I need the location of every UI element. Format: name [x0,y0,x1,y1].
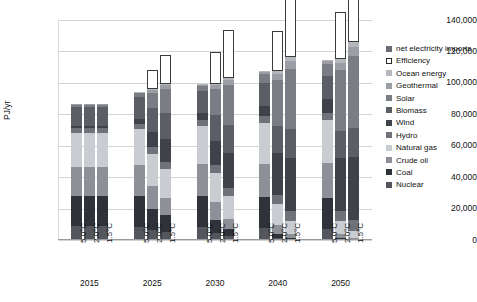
bar-segment-hydro [84,128,95,133]
legend-swatch-icon [386,145,392,151]
bar-segment-geothermal [223,80,234,85]
bar-segment-coal [84,196,95,226]
figure: PJ/yr 140,000120,000100,00080,00060,0004… [0,0,477,302]
x-axis-scenario-label: 1.5°C [357,223,365,243]
gridline [58,20,372,21]
legend-label: Nuclear [396,180,424,189]
bar-segment-hydro [197,120,208,126]
bar-segment-hydro [272,195,283,204]
legend-label: Coal [396,168,412,177]
bar-segment-geothermal [285,61,296,69]
bar-segment-wind [160,139,171,162]
x-axis-scenario-label: 5.0°C [80,223,88,243]
legend-swatch-icon [386,83,392,89]
legend-swatch-icon [386,70,392,76]
bar-segment-natural-gas [97,133,108,167]
legend-item[interactable]: Solar [386,94,476,103]
bar-segment-natural-gas [84,133,95,167]
bar-segment-crude-oil [84,167,95,196]
bar-segment-efficiency [210,52,221,84]
plot-area [58,20,372,240]
bar-segment-coal [97,196,108,226]
bar-segment-crude-oil [322,163,333,198]
bar-segment-hydro [210,165,221,173]
bar-segment-solar [97,105,108,106]
legend-swatch-icon [386,182,392,188]
bar-segment-crude-oil [147,186,158,209]
bar-segment-geothermal [197,84,208,86]
x-axis-scenario-label: 5.0°C [331,223,339,243]
bar-segment-wind [348,157,359,221]
legend-item[interactable]: Hydro [386,131,476,140]
bar-segment-geothermal [335,63,346,71]
legend-item[interactable]: Efficiency [386,56,476,65]
bar-segment-geothermal [160,85,171,89]
bar-segment-solar [259,74,270,83]
bar-segment-wind [322,99,333,112]
bar-segment-crude-oil [71,167,82,196]
bar-segment-geothermal [272,74,283,80]
legend-swatch-icon [386,169,392,175]
x-axis-year-label: 2030 [180,279,250,288]
bar-segment-biomass [210,115,221,141]
legend-item[interactable]: Ocean energy [386,69,476,78]
bar-segment-wind [272,153,283,195]
x-axis-scenario-label: 5.0°C [206,223,214,243]
bar-segment-solar [272,80,283,126]
legend-item[interactable]: Geothermal [386,81,476,90]
y-axis-tick-label: 20,000 [425,204,477,213]
x-axis-year-label: 2040 [243,279,313,288]
x-axis-scenario-label: 5.0°C [143,223,151,243]
bar-segment-wind [97,126,108,128]
x-axis-year-label: 2050 [306,279,376,288]
bar-segment-solar [322,64,333,76]
bar-segment-biomass [272,126,283,154]
bar-segment-efficiency [335,12,346,58]
bar-segment-natural-gas [147,154,158,186]
bar-segment-ocean-energy [147,89,158,90]
bar-segment-wind [147,132,158,147]
legend-item[interactable]: Wind [386,118,476,127]
legend-item[interactable]: Coal [386,168,476,177]
legend-swatch-icon [386,157,392,163]
bar-segment-geothermal [322,61,333,64]
bar-segment-ocean-energy [335,59,346,63]
x-axis-scenario-label: 2.0°C [156,223,164,243]
bar-segment-wind [223,153,234,188]
legend-label: Geothermal [396,81,438,90]
bar-segment-wind [210,141,221,165]
bar-segment-biomass [84,107,95,127]
y-axis-tick-label: 140,000 [425,16,477,25]
legend-item[interactable]: Nuclear [386,180,476,189]
legend-item[interactable]: Natural gas [386,143,476,152]
bar-segment-solar [84,105,95,106]
bar-segment-hydro [147,147,158,154]
bar-segment-ocean-energy [285,57,296,61]
y-axis-tick-label: 0 [425,236,477,245]
legend-item[interactable]: Crude oil [386,156,476,165]
bar-segment-geothermal [97,104,108,105]
bar-segment-wind [197,113,208,120]
bar-segment-efficiency [160,55,171,84]
bar-segment-natural-gas [259,123,270,164]
bar-segment-biomass [160,113,171,139]
bar-segment-solar [197,86,208,92]
x-axis-scenario-label: 2.0°C [281,223,289,243]
bar-segment-hydro [335,211,346,221]
bar-segment-solar [285,69,296,130]
y-axis-title: PJ/yr [2,101,12,120]
bar-segment-solar [335,70,346,131]
legend-item[interactable]: Biomass [386,106,476,115]
legend-item[interactable]: net electricity imports [386,44,476,53]
bar-segment-biomass [285,129,296,158]
bar-segment-wind [335,158,346,211]
bar-segment-solar [223,85,234,125]
bar-segment-wind [84,126,95,128]
bar-segment-hydro [322,113,333,120]
bar-segment-hydro [160,162,171,169]
legend-label: Efficiency [396,56,430,65]
bar-segment-ocean-energy [210,84,221,85]
bar-segment-crude-oil [259,164,270,198]
bar-segment-solar [348,56,359,128]
bar-segment-biomass [259,83,270,106]
